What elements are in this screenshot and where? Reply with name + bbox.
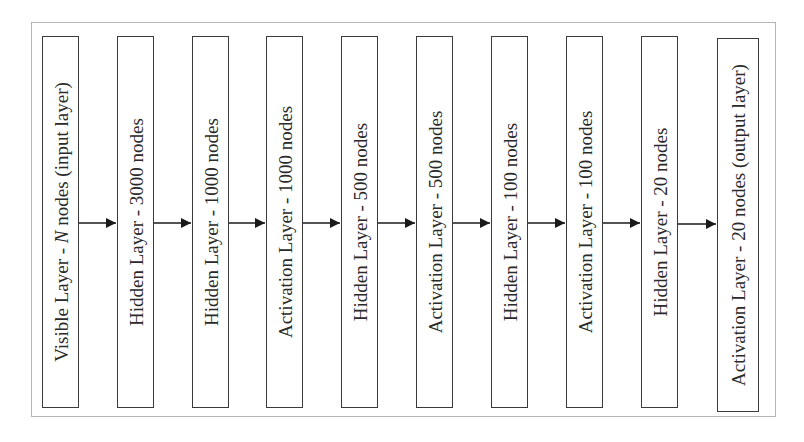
connection-arrows [0, 0, 804, 442]
